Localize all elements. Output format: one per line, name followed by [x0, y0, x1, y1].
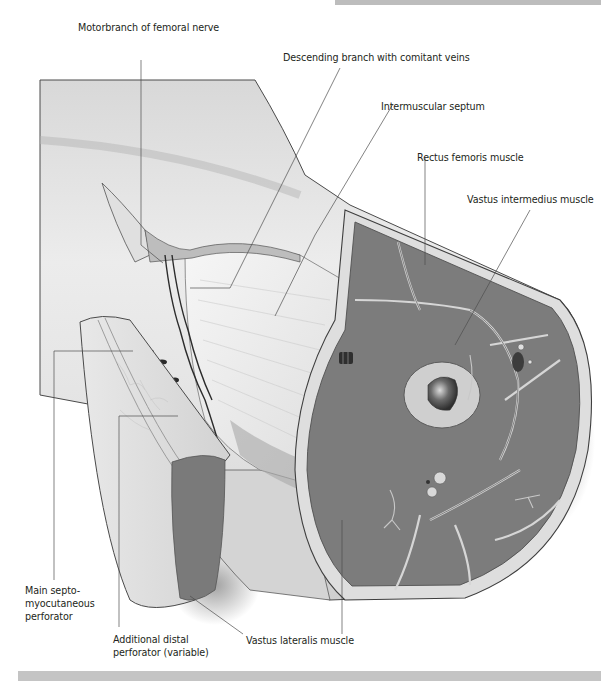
flap-muscle-cuff	[172, 455, 225, 600]
label-main-perforator-line3: perforator	[25, 610, 95, 623]
label-rectus-femoris: Rectus femoris muscle	[417, 151, 524, 164]
label-vastus-lateralis: Vastus lateralis muscle	[246, 634, 354, 647]
label-descending-branch: Descending branch with comitant veins	[283, 51, 470, 64]
thigh-illustration	[0, 0, 601, 681]
label-main-perforator: Main septo- myocutaneous perforator	[25, 584, 95, 623]
label-intermuscular-septum: Intermuscular septum	[381, 100, 485, 113]
label-distal-perforator: Additional distal perforator (variable)	[113, 633, 209, 659]
surgical-clip-icon	[339, 352, 353, 364]
label-main-perforator-line1: Main septo-	[25, 584, 95, 597]
label-distal-perforator-line2: perforator (variable)	[113, 646, 209, 659]
bottom-frame-bar	[18, 671, 601, 681]
femur-marrow	[428, 377, 458, 410]
label-motor-branch: Motorbranch of femoral nerve	[78, 21, 219, 34]
label-main-perforator-line2: myocutaneous	[25, 597, 95, 610]
label-vastus-intermedius: Vastus intermedius muscle	[467, 193, 594, 206]
label-distal-perforator-line1: Additional distal	[113, 633, 209, 646]
